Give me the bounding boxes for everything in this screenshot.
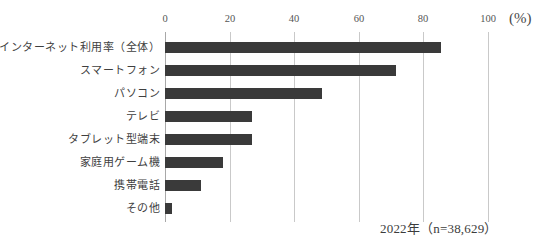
bar-rows: インターネット利用率（全体） スマートフォン パソコン テレビ タブレット型端末 xyxy=(0,36,548,220)
bar-row: 携帯電話 xyxy=(0,174,548,197)
bar-row: テレビ xyxy=(0,105,548,128)
bar-row: スマートフォン xyxy=(0,59,548,82)
bar-other xyxy=(165,203,172,214)
chart-annotation: 2022年（n=38,629） xyxy=(380,218,498,237)
x-axis-top: 0 20 40 60 80 100 (%) xyxy=(0,12,548,32)
x-tick-label-0: 0 xyxy=(162,12,167,26)
category-label-smartphone: スマートフォン xyxy=(80,59,161,82)
x-tick-label-80: 80 xyxy=(418,12,429,26)
x-tick-label-40: 40 xyxy=(289,12,300,26)
x-axis-unit-label: (%) xyxy=(509,8,532,28)
x-tick-label-20: 20 xyxy=(225,12,236,26)
category-label-game-console: 家庭用ゲーム機 xyxy=(80,151,161,174)
bar-row: その他 xyxy=(0,197,548,220)
category-label-tv: テレビ xyxy=(126,105,161,128)
bar-internet-overall xyxy=(165,42,441,53)
bar-chart: 0 20 40 60 80 100 (%) インターネット利用率（全体） スマー… xyxy=(0,0,548,252)
category-label-tablet: タブレット型端末 xyxy=(68,128,160,151)
bar-row: 家庭用ゲーム機 xyxy=(0,151,548,174)
x-tick-label-60: 60 xyxy=(354,12,365,26)
bar-tablet xyxy=(165,134,252,145)
bar-game-console xyxy=(165,157,223,168)
category-label-pc: パソコン xyxy=(114,82,160,105)
bar-row: タブレット型端末 xyxy=(0,128,548,151)
category-label-mobile-phone: 携帯電話 xyxy=(114,174,160,197)
category-label-internet-overall: インターネット利用率（全体） xyxy=(0,36,160,59)
bar-pc xyxy=(165,88,322,99)
x-tick-label-100: 100 xyxy=(480,12,496,26)
category-label-other: その他 xyxy=(126,197,161,220)
bar-mobile-phone xyxy=(165,180,201,191)
bar-row: インターネット利用率（全体） xyxy=(0,36,548,59)
bar-row: パソコン xyxy=(0,82,548,105)
bar-tv xyxy=(165,111,252,122)
bar-smartphone xyxy=(165,65,396,76)
